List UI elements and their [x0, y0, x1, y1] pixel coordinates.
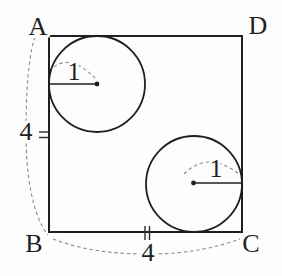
corner-label-a: A: [29, 12, 48, 41]
bottom-circle-radius-label: 1: [210, 154, 223, 183]
corner-label-c: C: [242, 229, 259, 258]
top-circle-center-dot: [95, 82, 100, 87]
diagram-canvas: A D B C 4 4 1 1: [0, 0, 282, 276]
geometry-figure: A D B C 4 4 1 1: [0, 0, 282, 276]
top-circle-radius-label: 1: [68, 57, 81, 86]
bottom-circle-center-dot: [191, 181, 196, 186]
left-side-length-label: 4: [20, 117, 33, 146]
bottom-side-length-label: 4: [142, 238, 155, 267]
corner-label-b: B: [25, 229, 42, 258]
corner-label-d: D: [249, 11, 268, 40]
